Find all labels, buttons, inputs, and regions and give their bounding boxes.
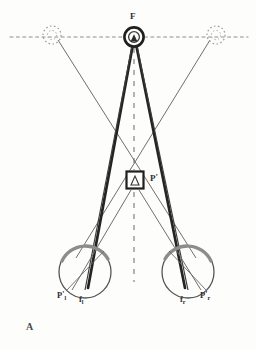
binocular-disparity-diagram [0,0,256,349]
figure-container: F P' P'l fl fr P'r A [0,0,256,349]
label-right-fovea: fr [180,295,186,305]
label-right-fovea-sub: r [183,299,186,305]
label-left-fovea-sub: l [82,299,84,305]
label-left-retinal-image-sub: l [64,295,66,301]
label-right-retinal-image-sub: r [207,295,210,301]
label-object-point-prime: ' [156,172,158,182]
label-left-retinal-image: P'l [57,291,66,301]
label-left-fovea: fl [79,295,84,305]
label-object-point: P' [150,173,158,183]
label-fixation-point: F [130,12,136,21]
label-right-retinal-image: P'r [200,291,210,301]
object-point-square [127,172,144,189]
panel-label: A [26,322,33,332]
